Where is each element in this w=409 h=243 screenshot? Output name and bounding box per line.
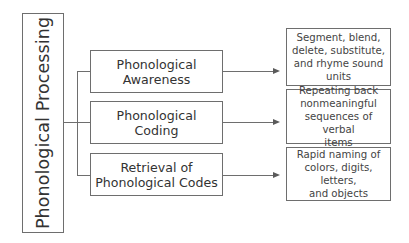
branch-connector-2: [77, 122, 90, 123]
component-label: Phonological Awareness: [117, 57, 197, 87]
arrow-line-1: [223, 71, 274, 72]
component-label: Phonological Coding: [117, 108, 197, 138]
arrowhead-icon: [273, 119, 280, 125]
description-text: Segment, blend, delete, substitute, and …: [292, 31, 385, 84]
description-box-coding: Repeating back nonmeaningful sequences o…: [286, 89, 391, 144]
branch-connector-3: [77, 175, 90, 176]
description-text: Rapid naming of colors, digits, letters,…: [289, 148, 388, 201]
arrow-line-2: [223, 122, 274, 123]
description-text: Repeating back nonmeaningful sequences o…: [289, 84, 388, 150]
arrowhead-icon: [273, 68, 280, 74]
root-connector: [63, 122, 77, 123]
component-box-phonological-coding: Phonological Coding: [90, 101, 223, 144]
description-box-retrieval: Rapid naming of colors, digits, letters,…: [286, 147, 391, 201]
arrowhead-icon: [273, 172, 280, 178]
component-label: Retrieval of Phonological Codes: [95, 160, 218, 190]
description-box-awareness: Segment, blend, delete, substitute, and …: [286, 28, 391, 86]
component-box-retrieval-of-phonological-codes: Retrieval of Phonological Codes: [90, 153, 223, 196]
arrow-line-3: [223, 175, 274, 176]
branch-connector-1: [77, 71, 90, 72]
root-box-phonological-processing: Phonological Processing: [22, 13, 64, 233]
component-box-phonological-awareness: Phonological Awareness: [90, 50, 223, 93]
root-label: Phonological Processing: [33, 17, 53, 229]
tree-vertical-bar: [77, 71, 78, 175]
